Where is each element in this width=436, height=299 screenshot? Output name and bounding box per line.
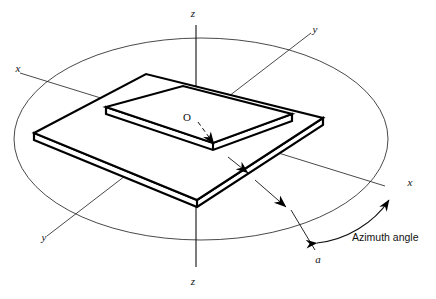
azimuth-angle-diagram: z z x x y y O a Azimuth angle <box>0 0 436 299</box>
z-axis-top-label: z <box>190 7 196 19</box>
x-axis-left-label: x <box>15 62 21 74</box>
z-axis-bottom-label: z <box>190 275 196 287</box>
dimension-a-leader <box>291 210 315 250</box>
y-axis-lower-label: y <box>41 231 47 243</box>
dimension-a-label: a <box>315 253 321 265</box>
diagram-canvas: z z x x y y O a Azimuth angle <box>0 0 436 299</box>
x-axis-right-label: x <box>407 176 413 188</box>
origin-label: O <box>183 111 191 123</box>
azimuth-angle-label: Azimuth angle <box>352 231 419 243</box>
y-axis-upper-label: y <box>312 23 318 35</box>
plate-gap-arrow-lower <box>255 180 286 207</box>
